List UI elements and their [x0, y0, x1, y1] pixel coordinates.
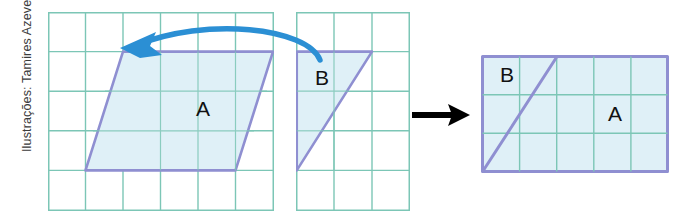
straight-black-arrow: [412, 100, 472, 130]
label-result-a: A: [608, 103, 622, 124]
curved-blue-arrow: [112, 10, 337, 70]
label-parallelogram-a: A: [196, 98, 210, 119]
label-result-b: B: [500, 64, 514, 85]
curved-arrow-stroke: [134, 29, 320, 60]
credit-label: Ilustrações: Tamires Azevedo: [18, 0, 36, 152]
illustration-canvas: Ilustrações: Tamires Azevedo: [0, 0, 688, 219]
label-triangle-b: B: [315, 67, 329, 88]
